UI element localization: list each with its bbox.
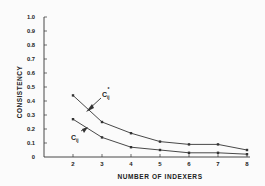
- data-point: [246, 153, 248, 155]
- x-tick-label: 5: [158, 161, 162, 167]
- x-axis-label: NUMBER OF INDEXERS: [117, 173, 202, 180]
- y-tick-label: 0.7: [27, 56, 35, 62]
- data-point: [130, 132, 132, 134]
- x-tick-label: 3: [100, 161, 104, 167]
- y-tick-label: 0.4: [27, 98, 36, 104]
- y-tick-label: 0: [32, 154, 35, 160]
- y-tick-label: 0.8: [27, 42, 36, 48]
- x-tick-label: 4: [129, 161, 133, 167]
- y-axis: 00.10.20.30.40.50.60.70.80.91.0: [27, 14, 47, 160]
- svg-text:ij: ij: [76, 138, 79, 143]
- x-tick-label: 6: [187, 161, 191, 167]
- data-point: [246, 149, 248, 151]
- x-tick-label: 7: [216, 161, 220, 167]
- y-tick-label: 0.2: [27, 126, 35, 132]
- x-tick-label: 2: [71, 161, 75, 167]
- y-tick-label: 0.9: [27, 28, 36, 34]
- y-tick-label: 0.3: [27, 112, 36, 118]
- y-tick-label: 1.0: [27, 14, 35, 20]
- data-point: [72, 94, 74, 96]
- data-point: [188, 143, 190, 145]
- data-point: [101, 121, 103, 123]
- data-point: [72, 118, 74, 120]
- data-point: [217, 152, 219, 154]
- svg-text:ij: ij: [107, 95, 110, 100]
- data-point: [159, 140, 161, 142]
- data-point: [130, 146, 132, 148]
- series-annotations: Cij*Cij: [71, 86, 110, 143]
- svg-text:*: *: [108, 86, 110, 92]
- x-axis: 2345678: [44, 154, 250, 167]
- data-point: [159, 149, 161, 151]
- data-point: [217, 143, 219, 145]
- y-axis-label: CONSISTENCY: [16, 66, 23, 119]
- consistency-chart: 00.10.20.30.40.50.60.70.80.91.0 2345678 …: [0, 0, 265, 186]
- y-tick-label: 0.5: [27, 84, 36, 90]
- y-tick-label: 0.1: [27, 140, 36, 146]
- x-tick-label: 8: [245, 161, 249, 167]
- series-layer: [72, 94, 248, 155]
- y-tick-label: 0.6: [27, 70, 36, 76]
- data-point: [101, 136, 103, 138]
- data-point: [188, 152, 190, 154]
